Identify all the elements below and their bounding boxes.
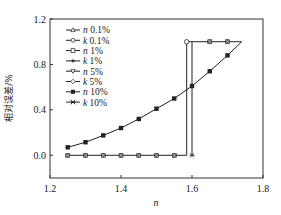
data-point <box>154 107 158 111</box>
legend-entry: n 1% <box>83 46 103 56</box>
legend-marker-x-square-icon <box>71 100 76 105</box>
data-point <box>190 84 194 88</box>
y-tick-label: 0.4 <box>34 104 47 115</box>
legend-marker-square-icon <box>71 49 75 53</box>
legend-marker-filled-square-icon <box>71 90 75 94</box>
legend: n 0.1%k 0.1%n 1%k 1%n 5%k 5%n 10%k 10% <box>66 25 110 107</box>
chart: 0.00.40.81.2 1.21.41.61.8 n 相对误差/% n 0.1… <box>0 0 281 215</box>
data-point <box>83 140 87 144</box>
data-point <box>119 126 123 130</box>
legend-entry: n 5% <box>83 67 103 77</box>
y-tick-label: 0.8 <box>34 59 47 70</box>
x-tick-label: 1.2 <box>44 183 57 194</box>
x-tick-label: 1.8 <box>257 183 270 194</box>
legend-entry: n 10% <box>83 87 108 97</box>
legend-entry: k 5% <box>83 77 102 87</box>
data-point <box>208 69 212 73</box>
x-tick-label: 1.4 <box>115 183 128 194</box>
y-tick-label: 1.2 <box>34 14 47 25</box>
data-point <box>101 133 105 137</box>
data-point <box>225 53 229 57</box>
x-tick-label: 1.6 <box>186 183 199 194</box>
legend-entry: k 0.1% <box>83 36 109 46</box>
legend-marker-diamond-icon <box>71 79 76 84</box>
legend-entry: n 0.1% <box>83 25 110 35</box>
legend-entry: k 1% <box>83 56 102 66</box>
data-point <box>172 96 176 100</box>
data-point <box>184 40 188 44</box>
legend-marker-circle-icon <box>71 38 75 42</box>
y-axis-label: 相对误差/% <box>3 74 14 122</box>
x-axis-label: n <box>154 197 159 208</box>
legend-marker-star-icon <box>71 59 76 64</box>
y-tick-label: 0.0 <box>34 150 47 161</box>
data-point <box>137 117 141 121</box>
data-point <box>66 145 70 149</box>
legend-entry: k 10% <box>83 98 107 108</box>
